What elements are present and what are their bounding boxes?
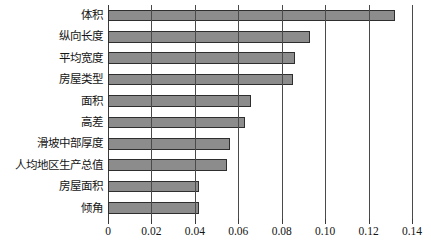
bar-row [108,91,412,112]
bar-row [108,48,412,69]
x-tick-label: 0.10 [315,225,335,237]
category-label: 滑坡中部厚度 [37,133,103,154]
x-tick-mark [282,219,283,224]
x-tick-mark [195,219,196,224]
bar [108,31,310,43]
x-tick-label: 0.12 [359,225,379,237]
x-tick-label: 0.06 [228,225,248,237]
category-label: 面积 [81,91,103,112]
x-tick-mark [369,219,370,224]
category-label: 人均地区生产总值 [15,155,103,176]
plot-area [108,5,412,219]
x-tick-label: 0.08 [272,225,292,237]
bar [108,74,293,86]
category-label: 房屋面积 [59,176,103,197]
bar-row [108,5,412,26]
bar-row [108,112,412,133]
x-axis: 00.020.040.060.080.100.120.14 [108,219,412,252]
x-tick-label: 0.14 [402,225,422,237]
category-axis: 体积纵向长度平均宽度房屋类型面积高差滑坡中部厚度人均地区生产总值房屋面积倾角 [0,5,106,219]
category-label: 高差 [81,112,103,133]
bar-row [108,155,412,176]
category-label: 体积 [81,5,103,26]
x-tick-mark [325,219,326,224]
gridline [369,5,370,219]
horizontal-bar-chart: 体积纵向长度平均宽度房屋类型面积高差滑坡中部厚度人均地区生产总值房屋面积倾角 0… [0,0,431,252]
x-tick-mark [238,219,239,224]
x-tick-label: 0.02 [141,225,161,237]
bar-row [108,198,412,219]
x-tick-mark [151,219,152,224]
bar [108,95,251,107]
bar-row [108,133,412,154]
bar [108,117,245,129]
category-label: 倾角 [81,198,103,219]
gridline [325,5,326,219]
x-tick-mark [108,219,109,224]
category-label: 平均宽度 [59,48,103,69]
category-label: 纵向长度 [59,26,103,47]
bar [108,138,230,150]
bar [108,202,199,214]
gridline [195,5,196,219]
bar-row [108,69,412,90]
bar-row [108,26,412,47]
bar-row [108,176,412,197]
gridline [151,5,152,219]
x-tick-label: 0.04 [185,225,205,237]
bar [108,52,295,64]
gridline [412,5,413,219]
x-tick-mark [412,219,413,224]
bar [108,181,199,193]
bar [108,159,227,171]
x-tick-label: 0 [105,225,111,237]
gridline [282,5,283,219]
category-label: 房屋类型 [59,69,103,90]
gridline [238,5,239,219]
